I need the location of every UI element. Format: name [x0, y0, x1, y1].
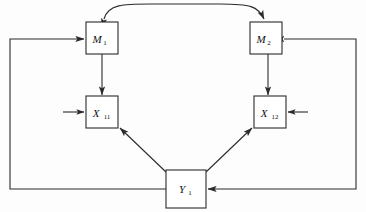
node-x12[interactable]: X 12: [254, 96, 286, 128]
edge-y1-to-x11: [120, 128, 166, 172]
node-m2[interactable]: M 2: [250, 22, 282, 54]
node-x12-subscript: 12: [272, 113, 280, 121]
node-x11-box[interactable]: [86, 96, 118, 128]
node-m1-box[interactable]: [86, 22, 118, 54]
node-m1[interactable]: M 1: [86, 22, 118, 54]
edge-y1-to-x12: [206, 128, 252, 172]
node-y1-subscript: 1: [188, 189, 192, 197]
node-y1-box[interactable]: [166, 170, 206, 208]
node-x11-subscript: 11: [104, 113, 111, 121]
diagram-canvas: M 1 M 2 X 11 X 12 Y 1: [0, 0, 366, 212]
node-m1-label: M: [91, 33, 102, 45]
node-y1[interactable]: Y 1: [166, 170, 206, 208]
diagram-svg: M 1 M 2 X 11 X 12 Y 1: [0, 0, 366, 212]
edge-m1-m2-curve: [104, 4, 264, 19]
node-x11-label: X: [92, 107, 101, 119]
node-x11[interactable]: X 11: [86, 96, 118, 128]
node-m2-label: M: [255, 33, 266, 45]
node-x12-box[interactable]: [254, 96, 286, 128]
node-x12-label: X: [260, 107, 269, 119]
node-m2-box[interactable]: [250, 22, 282, 54]
node-m2-subscript: 2: [267, 39, 271, 47]
node-m1-subscript: 1: [103, 39, 107, 47]
